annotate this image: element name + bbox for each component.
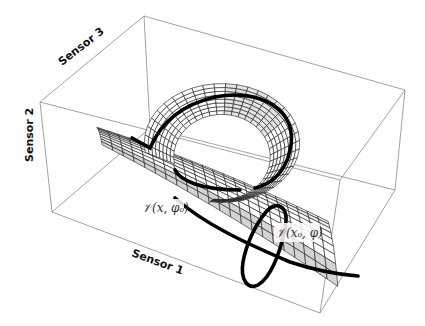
annotation-v-x-phi0: 𝒱(x, φₒ) [140,199,189,216]
box-edge-top-back [144,16,405,90]
mesh-cell [215,88,226,92]
box-edge-front-left-vertical [40,102,52,212]
figure-3d-plot: 𝒱(x, φₒ) 𝒱(xₒ, φ) Sensor 3 Sensor 2 Sens… [0,0,425,326]
mesh-cell [216,99,225,103]
annotation-text: 𝒱(xₒ, φ) [276,226,323,240]
axis-label-sensor-3: Sensor 3 [56,25,107,69]
annotation-text: 𝒱(x, φₒ) [142,201,189,215]
axis-label-sensor-1: Sensor 1 [130,247,185,278]
box-edge-right-vertical [395,90,405,190]
trough-surface [97,127,338,286]
bounding-box [40,16,405,313]
mesh-cell [225,84,237,89]
box-edge-top-right [340,90,405,180]
mesh-cell [217,111,225,115]
mesh-cell [216,107,224,111]
box-edge-back-vertical [144,16,150,128]
mesh-cell [214,84,226,88]
mesh-cell [216,103,225,107]
axis-label-sensor-2: Sensor 2 [23,108,36,162]
annotation-v-x0-phi: 𝒱(xₒ, φ) [274,223,323,242]
